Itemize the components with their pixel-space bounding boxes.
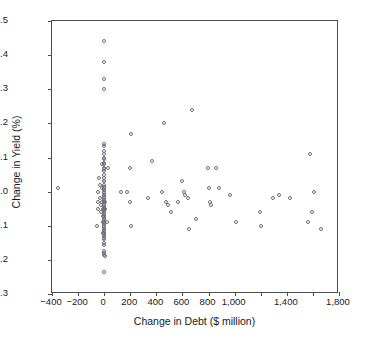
x-tick-label: 600 (174, 297, 190, 307)
data-point (96, 190, 100, 194)
x-tick-label: 1,400 (274, 297, 298, 307)
data-point (129, 224, 133, 228)
data-point (207, 186, 211, 190)
y-tick (48, 226, 52, 227)
data-point (102, 87, 106, 91)
data-point (105, 220, 109, 224)
data-point (160, 190, 164, 194)
data-point (146, 196, 150, 200)
y-tick-label: 0.1 (0, 152, 8, 162)
y-tick-label: 0.0 (0, 186, 8, 196)
y-tick (48, 123, 52, 124)
data-point (214, 166, 218, 170)
x-tick-label: 200 (121, 297, 137, 307)
x-tick (261, 292, 262, 296)
x-axis-title: Change in Debt ($ million) (51, 315, 338, 327)
data-point (102, 39, 106, 43)
data-point (277, 193, 281, 197)
data-point (312, 190, 316, 194)
x-tick (313, 292, 314, 296)
data-point (166, 203, 170, 207)
y-axis-title: Change in Yield (%) (10, 92, 22, 232)
data-point (259, 224, 263, 228)
y-tick-label: −0.3 (0, 288, 8, 298)
data-point (102, 60, 106, 64)
data-point (176, 200, 180, 204)
data-point (186, 196, 190, 200)
data-point (129, 132, 133, 136)
y-tick (48, 55, 52, 56)
data-point (306, 220, 310, 224)
data-point (180, 179, 184, 183)
y-tick (48, 158, 52, 159)
data-point (97, 176, 101, 180)
x-tick-label: −200 (66, 297, 87, 307)
data-point (206, 166, 210, 170)
y-tick (48, 260, 52, 261)
y-tick-label: 0.3 (0, 83, 8, 93)
data-point (150, 159, 154, 163)
data-point (162, 121, 166, 125)
data-point (271, 196, 275, 200)
data-point (119, 190, 123, 194)
data-point (128, 166, 132, 170)
data-point (190, 108, 194, 112)
data-point (308, 152, 312, 156)
y-tick-label: 0.5 (0, 15, 8, 25)
data-point (319, 227, 323, 231)
x-tick-label: 1,800 (326, 297, 350, 307)
x-tick-label: 1,000 (222, 297, 246, 307)
y-tick (48, 89, 52, 90)
y-tick-label: 0.2 (0, 117, 8, 127)
data-point (102, 77, 106, 81)
data-point (187, 227, 191, 231)
data-point (106, 166, 110, 170)
y-tick (48, 192, 52, 193)
data-point (128, 200, 132, 204)
data-point (102, 270, 106, 274)
y-tick-label: −0.1 (0, 220, 8, 230)
data-point (95, 224, 99, 228)
data-point (103, 254, 107, 258)
data-point (169, 210, 173, 214)
y-tick-label: −0.2 (0, 254, 8, 264)
data-point (288, 196, 292, 200)
x-tick-label: 800 (200, 297, 216, 307)
data-point (217, 186, 221, 190)
x-tick-label: 0 (101, 297, 106, 307)
data-point (209, 203, 213, 207)
x-tick-label: 400 (147, 297, 163, 307)
data-point (125, 190, 129, 194)
data-point (234, 220, 238, 224)
scatter-chart: Change in Yield (%) Change in Debt ($ mi… (0, 0, 365, 347)
data-point (310, 210, 314, 214)
data-point (102, 243, 106, 247)
data-point (102, 144, 106, 148)
data-point (228, 193, 232, 197)
data-points-layer (52, 21, 337, 292)
y-tick (48, 21, 52, 22)
x-tick-label: −400 (40, 297, 61, 307)
data-point (258, 210, 262, 214)
data-point (194, 217, 198, 221)
data-point (56, 186, 60, 190)
y-tick-label: 0.4 (0, 49, 8, 59)
plot-area (51, 20, 338, 293)
